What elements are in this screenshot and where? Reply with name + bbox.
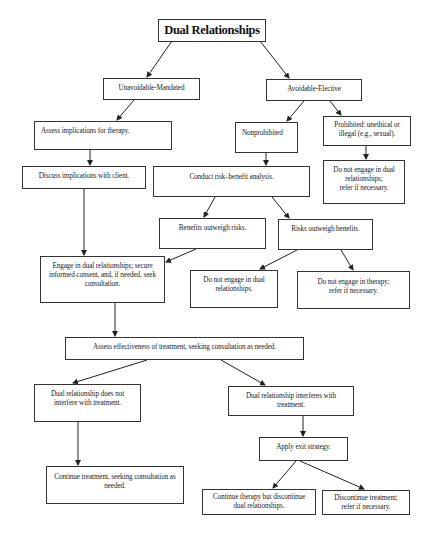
node-no-dual-relationships-refer: Do not engage in dual relationships; ref… (323, 160, 405, 204)
node-risks-outweigh-benefits: Risks outweigh benefits. (278, 219, 373, 250)
node-label-line: refer if necessary. (301, 287, 406, 296)
node-label-line: dual relationships. (206, 502, 312, 511)
node-discontinue-treatment: Discontinue treatment; refer if necessar… (322, 490, 410, 515)
node-engage-dual-relationships: Engage in dual relationships; secure inf… (40, 256, 165, 303)
node-label-line: illegal (e.g., sexual). (327, 130, 407, 139)
node-label-line: Prohibited: unethical or (327, 121, 407, 130)
node-label: Risks outweigh benefits. (291, 225, 359, 233)
node-label-line: consultation. (44, 280, 161, 289)
node-label: Discuss implications with client. (39, 172, 130, 180)
node-label-line: Do not engage in therapy; (301, 278, 406, 287)
node-unavoidable-mandated: Unavoidable-Mandated (103, 78, 200, 100)
node-label: Assess effectiveness of treatment, seeki… (93, 343, 276, 351)
node-label: Conduct risk–benefit analysis. (189, 173, 273, 181)
node-conduct-risk-benefit: Conduct risk–benefit analysis. (153, 166, 310, 197)
node-label-line: Continue treatment, seeking consultation… (50, 473, 180, 482)
title-node: Dual Relationships (158, 19, 266, 42)
node-label-line: Discontinue treatment; (326, 494, 406, 503)
node-label: Assess implications for therapy. (41, 127, 130, 135)
node-benefits-outweigh-risks: Benefits outweigh risks. (159, 218, 266, 249)
node-label-line: treatment. (232, 401, 350, 410)
title-text: Dual Relationships (164, 23, 260, 37)
node-label-line: relationships; (327, 175, 401, 184)
node-assess-implications: Assess implications for therapy. (34, 121, 172, 150)
node-interferes: Dual relationship interferes with treatm… (228, 386, 354, 416)
node-label-line: Engage in dual relationships; secure (44, 262, 161, 271)
node-apply-exit-strategy: Apply exit strategy. (259, 437, 348, 461)
node-avoidable-elective: Avoidable-Elective (266, 79, 362, 101)
node-nonprohibited: Nonprohibited (235, 122, 298, 153)
node-label-line: refer if necessary. (327, 184, 401, 193)
node-discuss-implications: Discuss implications with client. (22, 166, 146, 189)
node-label-line: Dual relationship does not (38, 390, 137, 399)
node-no-therapy-refer: Do not engage in therapy; refer if neces… (297, 271, 410, 309)
node-no-dual-relationships: Do not engage in dual relationships. (190, 270, 278, 308)
node-label-line: relationships. (194, 285, 274, 294)
node-label-line: interfere with treatment. (38, 399, 137, 408)
node-continue-therapy-discontinue-dual: Continue therapy but discontinue dual re… (202, 489, 316, 515)
node-assess-effectiveness: Assess effectiveness of treatment, seeki… (65, 337, 304, 360)
node-label-line: needed. (50, 482, 180, 491)
node-label-line: Do not engage in dual (327, 166, 401, 175)
node-label-line: Continue therapy but discontinue (206, 493, 312, 502)
node-not-interfere: Dual relationship does not interfere wit… (34, 384, 141, 422)
node-label-line: refer if necessary. (326, 503, 406, 512)
node-label-line: informed consent, and, if needed, seek (44, 271, 161, 280)
node-label: Nonprohibited (242, 129, 283, 137)
node-label: Unavoidable-Mandated (119, 84, 185, 92)
node-label-line: Do not engage in dual (194, 276, 274, 285)
node-label: Benefits outweigh risks. (179, 224, 246, 232)
node-prohibited: Prohibited: unethical or illegal (e.g., … (323, 116, 411, 146)
node-label-line: Dual relationship interferes with (232, 392, 350, 401)
node-label: Apply exit strategy. (276, 443, 330, 451)
node-label: Avoidable-Elective (287, 85, 341, 93)
node-continue-treatment: Continue treatment, seeking consultation… (46, 466, 184, 504)
